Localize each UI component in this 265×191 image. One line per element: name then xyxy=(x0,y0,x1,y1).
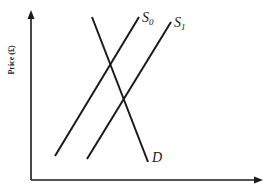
y-axis-label-text: Price (£) xyxy=(7,45,16,74)
s1-label-main: S xyxy=(174,15,181,30)
s1-label-sub: 1 xyxy=(181,22,186,32)
d-label-main: D xyxy=(152,150,162,165)
demand-curve-d xyxy=(92,17,148,162)
supply-curve-s1 xyxy=(87,22,171,159)
x-axis-arrow-icon xyxy=(254,177,263,184)
supply-demand-chart xyxy=(0,0,265,191)
s0-label: S0 xyxy=(142,11,154,27)
y-axis-label: Price (£) xyxy=(4,38,18,82)
s0-label-main: S xyxy=(142,10,149,25)
y-axis-arrow-icon xyxy=(28,10,35,19)
supply-curve-s0 xyxy=(55,17,139,156)
s1-label: S1 xyxy=(174,16,186,32)
s0-label-sub: 0 xyxy=(149,17,154,27)
d-label: D xyxy=(152,151,162,165)
